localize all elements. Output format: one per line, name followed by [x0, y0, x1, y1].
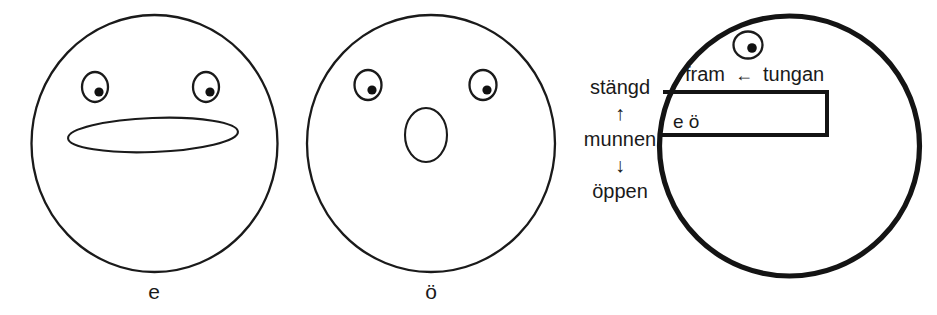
vowel-box-entries: e ö [673, 112, 699, 131]
face-e-caption: e [124, 281, 184, 302]
face-oe-outline [307, 15, 555, 272]
axis-label-munnen: munnen [584, 128, 656, 151]
vowel-articulation-figure: e ö stängd ↑ munnen ↓ öppen fram←tungan … [0, 0, 937, 315]
up-arrow-icon: ↑ [615, 102, 625, 125]
mouth-openness-axis: stängd ↑ munnen ↓ öppen [578, 76, 662, 203]
face-oe-caption: ö [401, 281, 461, 302]
face-e-right-pupil-icon [205, 87, 214, 96]
face-e-left-pupil-icon [94, 87, 103, 96]
face-e-left-eye-icon [82, 72, 108, 102]
face-oe-group [307, 15, 555, 272]
axis-label-stangd: stängd [590, 76, 650, 99]
face-oe-left-pupil-icon [367, 85, 376, 94]
down-arrow-icon: ↓ [615, 154, 625, 177]
figure-drawing [0, 0, 937, 315]
vowel-chart-pupil-icon [747, 43, 757, 53]
face-oe-left-eye-icon [355, 70, 382, 100]
axis-label-oppen: öppen [592, 180, 648, 203]
face-oe-right-eye-icon [470, 70, 497, 100]
vowel-chart-group [659, 16, 920, 276]
vowel-chart-eye-icon [734, 32, 763, 59]
face-e-right-eye-icon [193, 72, 219, 102]
face-e-outline [32, 15, 278, 272]
axis-label-tungan: tungan [763, 63, 824, 85]
left-arrow-icon: ← [735, 65, 753, 85]
axis-label-fram: fram [685, 63, 725, 85]
face-oe-right-pupil-icon [482, 85, 491, 94]
face-e-group [32, 15, 278, 272]
vowel-chart-head-outline [660, 16, 920, 276]
tongue-frontness-axis: fram←tungan [685, 64, 824, 84]
